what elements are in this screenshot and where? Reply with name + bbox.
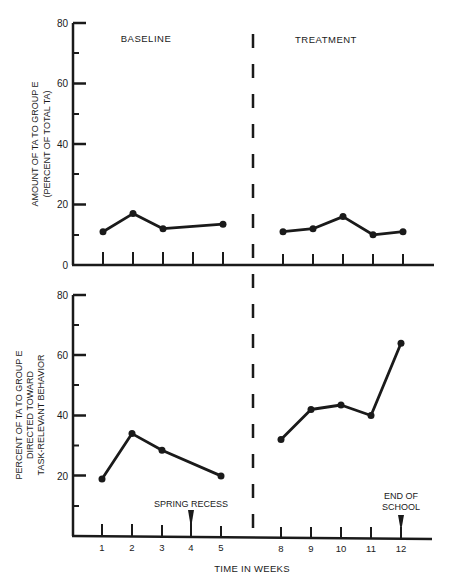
bottom-chart: 80 60 40 20 1 2 3 4 5 8 9 10 11 1 <box>14 290 432 574</box>
bottom-ytick-60: 60 <box>57 350 69 361</box>
bottom-ylabel-line1: PERCENT OF TA TO GROUP E <box>14 350 24 479</box>
xtick-9: 9 <box>308 543 313 554</box>
bottom-treatment-line <box>281 343 401 439</box>
bottom-ytick-80: 80 <box>57 290 69 301</box>
end-of-label: END OF <box>384 491 419 501</box>
bottom-baseline-line <box>102 434 221 479</box>
top-ylabel-line2: (PERCENT OF TOTAL TA) <box>42 90 52 197</box>
xtick-3: 3 <box>159 542 164 553</box>
bottom-ylabel-line2: DIRECTED TOWARD <box>25 371 35 459</box>
end-of-school-arrow-icon <box>398 515 404 530</box>
bottom-ylabel-line3: TASK-RELEVANT BEHAVIOR <box>36 354 46 475</box>
xtick-11: 11 <box>366 543 376 554</box>
top-ytick-0: 0 <box>62 260 68 271</box>
xtick-8: 8 <box>278 543 283 554</box>
baseline-label: BASELINE <box>121 33 171 44</box>
xtick-10: 10 <box>336 543 347 554</box>
school-label: SCHOOL <box>382 502 420 512</box>
xtick-4: 4 <box>188 542 193 553</box>
bottom-ytick-40: 40 <box>57 410 69 421</box>
xtick-5: 5 <box>218 542 223 553</box>
xtick-2: 2 <box>129 542 134 553</box>
top-chart: 80 60 40 20 0 BASELINE TREATMENT AMOUNT … <box>30 18 434 271</box>
chart-canvas: 80 60 40 20 0 BASELINE TREATMENT AMOUNT … <box>0 0 451 585</box>
xtick-1: 1 <box>99 542 104 553</box>
top-ytick-20: 20 <box>57 199 69 210</box>
top-ytick-40: 40 <box>57 139 69 150</box>
spring-recess-label: SPRING RECESS <box>154 499 228 509</box>
bottom-ytick-20: 20 <box>57 471 69 482</box>
top-ytick-60: 60 <box>57 78 69 89</box>
bottom-x-axis <box>72 536 432 539</box>
treatment-label: TREATMENT <box>295 34 357 45</box>
xtick-12: 12 <box>396 543 407 554</box>
top-ylabel-line1: AMOUNT OF TA TO GROUP E <box>30 81 40 206</box>
x-axis-title: TIME IN WEEKS <box>214 563 290 574</box>
bottom-treatment-points <box>278 340 405 443</box>
top-ytick-80: 80 <box>57 18 69 29</box>
